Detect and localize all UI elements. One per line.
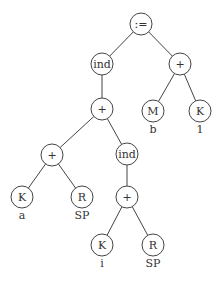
node-label: K	[98, 239, 107, 252]
node-sublabel: SP	[146, 257, 162, 270]
tree-nodes: :=ind+MbK1++indKaRSP+KiRSP	[11, 13, 211, 270]
node-label: ind	[93, 58, 111, 71]
edge-plus_r-M	[158, 74, 174, 102]
node-label: R	[78, 191, 87, 204]
node-label: +	[47, 149, 56, 162]
tree-node-plus_m: +	[91, 98, 113, 120]
tree-node-M: Mb	[142, 100, 164, 136]
edge-plus_b-R2	[132, 207, 148, 236]
node-label: :=	[135, 18, 148, 31]
node-label: R	[149, 239, 158, 252]
tree-node-Ka: Ka	[11, 186, 33, 222]
node-sublabel: a	[19, 209, 26, 222]
tree-node-R2: RSP	[142, 234, 164, 270]
tree-node-plus_b: +	[116, 186, 138, 208]
edge-plus_l-Ka	[28, 164, 45, 188]
tree-node-R1: RSP	[71, 186, 93, 222]
tree-node-plus_r: +	[169, 53, 191, 75]
node-label: K	[18, 191, 27, 204]
edge-assign-ind1	[110, 32, 134, 56]
tree-node-plus_l: +	[41, 144, 63, 166]
node-sublabel: 1	[197, 123, 204, 136]
edge-assign-plus_r	[149, 32, 173, 56]
tree-node-K1: K1	[189, 100, 211, 136]
node-label: K	[196, 105, 205, 118]
node-label: M	[147, 105, 158, 118]
node-label: +	[175, 58, 184, 71]
node-label: ind	[118, 148, 136, 161]
node-label: +	[97, 103, 106, 116]
tree-node-assign: :=	[130, 13, 152, 35]
node-sublabel: b	[149, 123, 156, 136]
syntax-tree-diagram: :=ind+MbK1++indKaRSP+KiRSP	[0, 0, 221, 281]
node-sublabel: i	[100, 257, 104, 270]
edge-plus_l-R1	[58, 164, 75, 188]
edge-plus_m-plus_l	[60, 116, 94, 147]
tree-node-ind1: ind	[91, 53, 113, 75]
node-sublabel: SP	[75, 209, 91, 222]
edge-plus_b-Ki	[107, 207, 122, 235]
tree-node-ind2: ind	[116, 143, 138, 165]
tree-node-Ki: Ki	[91, 234, 113, 270]
node-label: +	[122, 191, 131, 204]
edge-plus_r-K1	[184, 74, 195, 101]
edge-plus_m-ind2	[107, 119, 121, 145]
